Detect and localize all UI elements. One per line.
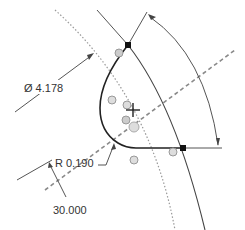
constraint-glyph-icon[interactable] — [123, 101, 131, 109]
angle-extension-line-30 — [17, 160, 52, 180]
outer-arc[interactable] — [128, 45, 205, 230]
constraint-glyph-icon[interactable] — [108, 96, 116, 104]
reference-circle-arc[interactable] — [55, 10, 175, 230]
arrowhead-icon — [148, 14, 156, 20]
fillet-radius-label[interactable]: R 0.190 — [55, 157, 94, 169]
arrowhead-icon — [48, 162, 53, 168]
fillet-leader — [98, 147, 113, 165]
angle-dimension-label-30[interactable]: 30.000 — [53, 204, 87, 216]
constraint-glyph-icon[interactable] — [129, 122, 139, 132]
angle-dimension-arc-60[interactable] — [150, 17, 218, 145]
constraint-glyph-icon[interactable] — [169, 148, 177, 156]
construction-line-right[interactable] — [128, 12, 147, 45]
constraint-glyph-icon[interactable] — [122, 116, 130, 124]
sketch-canvas[interactable]: Ø 4.178 30.000 R 0.190 — [0, 0, 245, 230]
construction-line-left[interactable] — [97, 10, 128, 45]
constraint-glyph-icon[interactable] — [115, 49, 123, 57]
angle-leader-30 — [50, 165, 66, 197]
vertex-point-icon[interactable] — [180, 145, 186, 151]
arrowhead-icon — [216, 138, 220, 146]
vertex-point-icon[interactable] — [125, 42, 131, 48]
diameter-dimension-label[interactable]: Ø 4.178 — [24, 82, 63, 94]
constraint-glyph-icon[interactable] — [130, 156, 138, 164]
arrowhead-icon — [111, 143, 116, 150]
centerline[interactable] — [45, 50, 235, 190]
arrowhead-icon — [87, 53, 94, 60]
